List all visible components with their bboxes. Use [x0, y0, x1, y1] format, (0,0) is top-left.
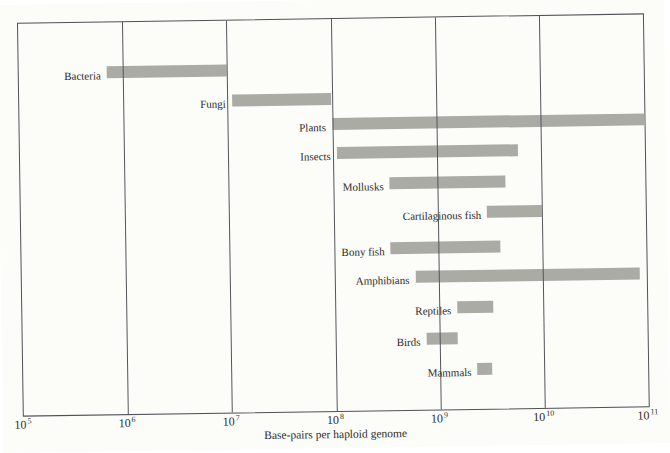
bar-birds — [426, 332, 458, 344]
bar-insects — [337, 144, 518, 159]
gridline — [330, 19, 337, 411]
x-tick-label: 1011 — [637, 408, 658, 423]
x-tick-label: 108 — [327, 413, 344, 428]
category-label-bacteria: Bacteria — [64, 68, 101, 83]
category-label-insects: Insects — [300, 149, 331, 163]
x-tick-label: 109 — [431, 411, 448, 426]
bar-bony-fish — [390, 241, 500, 255]
category-label-amphibians: Amphibians — [356, 273, 410, 288]
category-label-bony-fish: Bony fish — [341, 244, 384, 259]
category-label-birds: Birds — [396, 335, 420, 349]
x-tick-label: 107 — [223, 414, 240, 429]
gridline — [226, 21, 233, 413]
category-label-mammals: Mammals — [427, 365, 471, 380]
x-tick-label: 105 — [14, 418, 31, 433]
figure-root: BacteriaFungiPlantsInsectsMollusksCartil… — [0, 0, 670, 453]
bar-bacteria — [107, 65, 227, 79]
x-tick-label: 106 — [118, 416, 135, 431]
gridline — [122, 22, 129, 414]
plot-area: BacteriaFungiPlantsInsectsMollusksCartil… — [17, 13, 650, 416]
bar-amphibians — [415, 267, 639, 282]
category-label-fungi: Fungi — [200, 97, 226, 111]
bar-reptiles — [457, 301, 493, 314]
bar-mollusks — [389, 175, 505, 189]
category-label-plants: Plants — [299, 120, 326, 134]
category-label-reptiles: Reptiles — [415, 303, 451, 318]
bar-mammals — [477, 363, 492, 375]
bar-plants — [332, 113, 645, 130]
bar-cartilaginous-fish — [487, 205, 542, 218]
category-label-mollusks: Mollusks — [343, 179, 384, 194]
bar-fungi — [232, 93, 332, 106]
category-label-cartilaginous-fish: Cartilaginous fish — [403, 208, 482, 223]
x-tick-label: 1010 — [533, 410, 554, 425]
